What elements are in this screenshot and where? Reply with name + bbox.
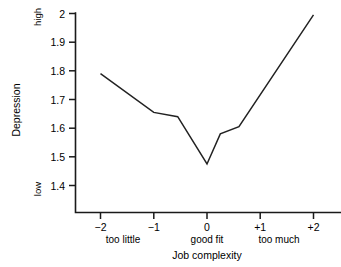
x-category-label-too-little: too little bbox=[106, 234, 141, 245]
y-tick-label-1-8: 1.8 bbox=[50, 65, 65, 77]
y-axis-title: Depression bbox=[10, 83, 22, 136]
y-range-label-high: high bbox=[32, 8, 43, 26]
y-tick-label-1-9: 1.9 bbox=[50, 36, 65, 48]
y-range-label-low: low bbox=[32, 182, 43, 196]
x-axis-ticks bbox=[101, 213, 314, 220]
x-axis-title: Job complexity bbox=[172, 249, 242, 261]
depression-job-complexity-line-chart: 2 1.9 1.8 1.7 1.6 1.5 1.4 high low Depre… bbox=[0, 0, 341, 267]
y-axis-range-labels: high low bbox=[32, 8, 43, 196]
x-tick-label-plus1: +1 bbox=[254, 221, 266, 233]
x-tick-label-0: 0 bbox=[204, 221, 210, 233]
chart-container: 2 1.9 1.8 1.7 1.6 1.5 1.4 high low Depre… bbox=[0, 0, 341, 267]
x-axis-tick-labels: −2 −1 0 +1 +2 bbox=[95, 221, 320, 233]
x-category-label-too-much: too much bbox=[258, 234, 299, 245]
x-category-label-good-fit: good fit bbox=[191, 234, 224, 245]
y-tick-label-1-4: 1.4 bbox=[50, 180, 65, 192]
x-tick-label-plus2: +2 bbox=[308, 221, 320, 233]
y-tick-label-1-7: 1.7 bbox=[50, 94, 65, 106]
axis-frame bbox=[76, 13, 341, 213]
y-tick-label-1-5: 1.5 bbox=[50, 151, 65, 163]
data-series-depression bbox=[101, 15, 314, 164]
x-axis-category-labels: too little good fit too much bbox=[106, 234, 300, 245]
y-tick-label-1-6: 1.6 bbox=[50, 122, 65, 134]
x-tick-label-minus1: −1 bbox=[148, 221, 160, 233]
y-axis-tick-labels: 2 1.9 1.8 1.7 1.6 1.5 1.4 bbox=[50, 8, 65, 192]
y-axis-ticks bbox=[69, 14, 76, 186]
y-tick-label-2: 2 bbox=[59, 8, 65, 20]
x-tick-label-minus2: −2 bbox=[95, 221, 107, 233]
